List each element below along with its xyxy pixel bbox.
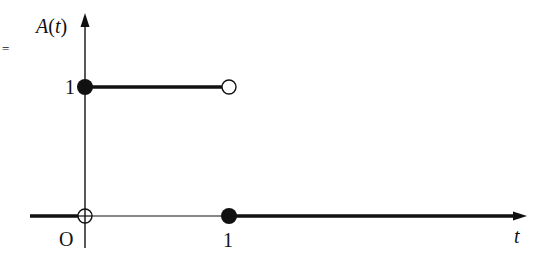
closed-point-1-0 bbox=[221, 208, 237, 224]
y-axis-arrow-icon bbox=[81, 13, 90, 27]
open-point-1-1 bbox=[222, 80, 236, 94]
margin-mark: = bbox=[2, 41, 9, 56]
closed-point-0-1 bbox=[77, 79, 93, 95]
step-function-chart: = A(t) 1 O 1 t bbox=[0, 0, 549, 258]
y-axis-label: A(t) bbox=[34, 15, 67, 38]
origin-label: O bbox=[59, 228, 73, 250]
x-tick-label-1: 1 bbox=[223, 229, 233, 251]
y-tick-label-1: 1 bbox=[65, 76, 75, 98]
x-axis-label: t bbox=[514, 225, 520, 247]
x-axis-arrow-icon bbox=[513, 212, 527, 221]
